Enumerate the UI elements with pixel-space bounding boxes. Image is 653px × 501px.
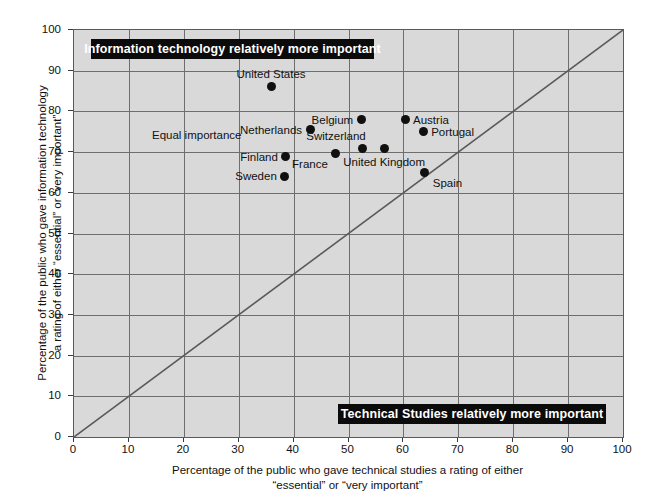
x-tick-label-80: 80 xyxy=(506,443,519,455)
x-axis-title-line-1: Percentage of the public who gave techni… xyxy=(172,464,523,476)
x-tick-label-70: 70 xyxy=(451,443,464,455)
banner-technical-studies: Technical Studies relatively more import… xyxy=(338,404,606,424)
equal-importance-label: Equal importance xyxy=(152,129,242,141)
y-tick-label-90: 90 xyxy=(48,64,61,76)
y-axis-title-line-1: Percentage of the public who gave inform… xyxy=(36,85,48,380)
y-tick-label-70: 70 xyxy=(48,145,61,157)
scatter-chart-figure: Percentage of the public who gave inform… xyxy=(0,0,653,501)
x-tick-label-90: 90 xyxy=(561,443,574,455)
x-tick-label-0: 0 xyxy=(70,443,76,455)
x-tick-label-20: 20 xyxy=(176,443,189,455)
x-tick-label-100: 100 xyxy=(612,443,631,455)
x-axis-title: Percentage of the public who gave techni… xyxy=(73,463,622,493)
x-tick-label-30: 30 xyxy=(231,443,244,455)
y-tick-label-40: 40 xyxy=(48,267,61,279)
x-axis-title-line-2: “essential” or “very important” xyxy=(272,479,422,491)
y-tick-label-20: 20 xyxy=(48,349,61,361)
y-tick-label-100: 100 xyxy=(42,23,61,35)
x-tick-label-60: 60 xyxy=(396,443,409,455)
y-tick-label-80: 80 xyxy=(48,104,61,116)
x-tick-label-50: 50 xyxy=(341,443,354,455)
plot-area: United StatesNetherlandsBelgiumAustriaPo… xyxy=(73,29,624,438)
y-tick-label-50: 50 xyxy=(48,227,61,239)
y-tick-label-10: 10 xyxy=(48,389,61,401)
banner-information-technology: Information technology relatively more i… xyxy=(91,39,374,59)
y-tick-label-60: 60 xyxy=(48,186,61,198)
y-tick-label-30: 30 xyxy=(48,308,61,320)
x-tick-label-10: 10 xyxy=(121,443,134,455)
x-tick-label-40: 40 xyxy=(286,443,299,455)
y-axis-title-container: Percentage of the public who gave inform… xyxy=(0,0,40,501)
y-tick-label-0: 0 xyxy=(55,430,61,442)
annotation-layer: Information technology relatively more i… xyxy=(74,30,623,437)
